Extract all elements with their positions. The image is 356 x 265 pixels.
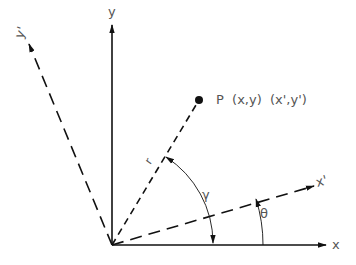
y-prime-axis [29,44,112,245]
gamma-label: γ [202,187,210,202]
point-p-label: P (x,y) (x',y') [216,92,307,107]
theta-label: θ [260,206,268,221]
y-prime-axis-label: y' [11,24,29,40]
radius-label: r [142,155,156,167]
point-p [195,96,203,104]
coordinate-diagram: x y x' y' r P (x,y) (x',y') γ θ [0,0,356,265]
x-prime-axis-label: x' [314,172,329,190]
x-axis-label: x [332,237,340,252]
y-axis-label: y [108,4,116,19]
